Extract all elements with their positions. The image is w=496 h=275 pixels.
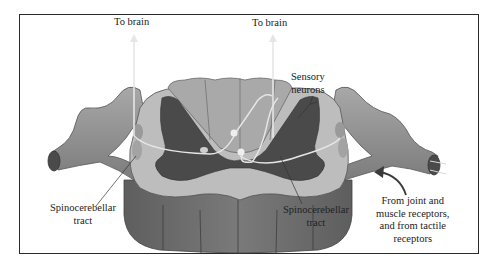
label-text: Spinocerebellar	[50, 202, 116, 215]
label-text: receptors	[376, 233, 449, 246]
neuron-cell-body	[231, 130, 238, 137]
label-text: From joint and	[376, 195, 449, 208]
right-spinal-nerve	[332, 87, 446, 180]
label-text: Spinocerebellar	[283, 204, 349, 217]
left-spinal-nerve	[48, 87, 144, 180]
label-text: tract	[50, 215, 116, 228]
neuron-cell-body	[238, 149, 245, 156]
label-spinocerebellar-right: Spinocerebellar tract	[283, 204, 349, 229]
label-spinocerebellar-left: Spinocerebellar tract	[50, 202, 116, 227]
label-text: To brain	[252, 17, 287, 28]
label-text: neurons	[291, 84, 325, 97]
label-text: Sensory	[291, 71, 325, 84]
label-text: and from tactile	[376, 220, 449, 233]
label-text: tract	[283, 217, 349, 230]
cord-cross-section	[130, 78, 349, 200]
label-text: To brain	[114, 16, 149, 27]
receptor-input-arrow	[374, 166, 406, 195]
label-to-brain-left: To brain	[114, 16, 149, 29]
label-receptors: From joint and muscle receptors, and fro…	[376, 195, 449, 245]
label-text: muscle receptors,	[376, 208, 449, 221]
label-sensory-neurons: Sensory neurons	[291, 71, 325, 96]
label-to-brain-right: To brain	[252, 17, 287, 30]
